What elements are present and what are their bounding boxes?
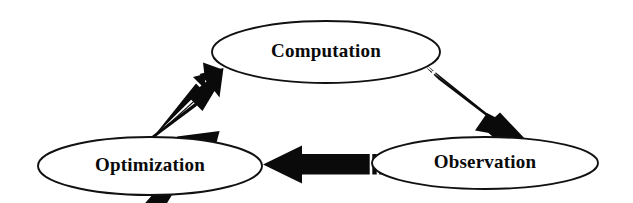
node-computation-label: Computation xyxy=(271,40,381,61)
node-computation[interactable]: Computation xyxy=(212,21,440,83)
node-observation[interactable]: Observation xyxy=(372,137,598,189)
node-optimization[interactable]: Optimization xyxy=(38,137,262,195)
node-observation-label: Observation xyxy=(434,151,537,172)
cycle-diagram: Computation Optimization Observation xyxy=(0,0,633,203)
arrow-computation-to-observation xyxy=(419,63,528,144)
arrow-shaft-and-head xyxy=(263,146,382,184)
arrow-observation-to-optimization xyxy=(263,146,382,184)
node-optimization-label: Optimization xyxy=(95,154,205,175)
diagram-canvas: Computation Optimization Observation xyxy=(0,0,633,203)
